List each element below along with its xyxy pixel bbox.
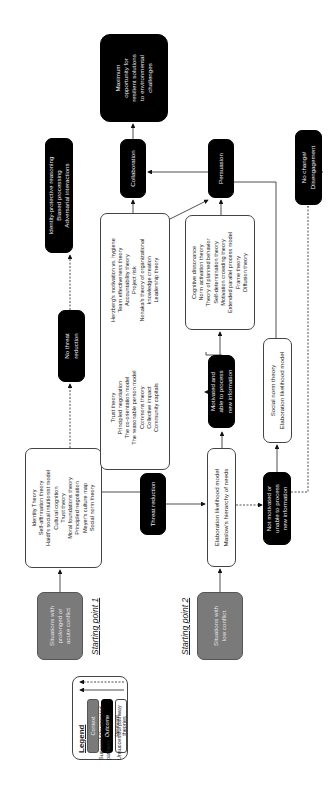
text-line: Biased processing bbox=[55, 157, 63, 235]
text-line: Threat reduction bbox=[149, 481, 157, 526]
text-line: Diffusion theory bbox=[242, 232, 249, 313]
text-line: Motivated and bbox=[209, 370, 217, 414]
text-line: Cognitive dissonance bbox=[191, 232, 198, 313]
text-line: Maximum bbox=[114, 54, 122, 101]
theories-collaboration: Trust theory Principled negotiation The … bbox=[100, 213, 170, 470]
text-line: Trust theory bbox=[60, 470, 67, 546]
text-line: Motivation crowding theory bbox=[220, 232, 227, 313]
text-line: acute conflict bbox=[64, 606, 72, 646]
text-line: Meyer's culture map bbox=[82, 470, 89, 546]
text-line: Commons theory bbox=[139, 370, 146, 444]
text-line: Haidt's social intuitionist model bbox=[45, 470, 52, 546]
legend-path-labels: Successful/suggested pathway Unsuccessfu… bbox=[98, 676, 128, 760]
text-line: Disengagement bbox=[309, 146, 317, 189]
theories-elaboration: Elaboration likelihood model Maslow's hi… bbox=[207, 448, 236, 567]
text-line: Not motivated or bbox=[265, 484, 273, 533]
text-line: Collective impact bbox=[146, 370, 153, 444]
text-line: Self-determination theory bbox=[213, 232, 220, 313]
outcome-collaboration: Collaboration bbox=[120, 139, 146, 198]
text-line: Theory of planned behavior bbox=[205, 232, 212, 313]
text-line: Self-affirmation theory bbox=[38, 470, 45, 546]
outcome-maximum-opportunity: Maximum opportunity for resilient soluti… bbox=[100, 34, 168, 122]
text-line: Norm activation theory bbox=[198, 232, 205, 313]
text-line: Social norm theory bbox=[269, 352, 277, 429]
context-low-conflict: Situations with low conflict bbox=[197, 592, 243, 660]
text-line: prolonged or bbox=[56, 606, 64, 646]
text-line: unable to process bbox=[273, 484, 281, 533]
outcome-threat-reduction: Threat reduction bbox=[140, 473, 166, 535]
text-line: challenges bbox=[146, 54, 154, 101]
outcome-motivated: Motivated and able to process new inform… bbox=[208, 355, 235, 428]
text-line: Principled negotiation bbox=[117, 370, 124, 444]
text-line: resilient solutions bbox=[130, 54, 138, 101]
text-line: The co-orientation model bbox=[124, 370, 131, 444]
text-line: knowledge creation bbox=[146, 238, 153, 322]
diagram-canvas: Legend Context Outcome Relevant theories… bbox=[0, 0, 328, 792]
text-line: Collaboration bbox=[129, 150, 137, 186]
text-line: Social norm theory bbox=[89, 470, 96, 546]
outcome-no-threat-reduction: No threat reduction bbox=[58, 310, 85, 382]
legend-unsuccessful-text: Unsuccessful pathway bbox=[116, 680, 122, 760]
starting-point-2-label: Starting point 2 bbox=[180, 598, 190, 655]
text-line: to environmental bbox=[138, 54, 146, 101]
outcome-persuasion: Persuasion bbox=[208, 139, 234, 198]
text-line: Project risk bbox=[131, 238, 138, 322]
text-line: opportunity for bbox=[122, 54, 130, 101]
text-line: No change/ bbox=[300, 146, 308, 189]
theories-social-norm: Social norm theory Elaboration likelihoo… bbox=[263, 338, 292, 443]
outcome-identity-protective: Identity-protective reasoning Biased pro… bbox=[45, 138, 73, 253]
context-prolonged-conflict: Situations with prolonged or acute confl… bbox=[37, 592, 83, 660]
text-line: Principled negotiation bbox=[74, 470, 81, 546]
text-line: Extended parallel process model bbox=[227, 232, 234, 313]
text-line: Moral foundations theory bbox=[67, 470, 74, 546]
text-line: Nonaka's theory of organizational bbox=[139, 238, 146, 322]
text-line: Elaboration likelihood model bbox=[278, 352, 286, 429]
text-line: Leadership theory bbox=[153, 238, 160, 322]
theories-identity: Identity Theory Self-affirmation theory … bbox=[25, 448, 102, 568]
text-line: Situations with bbox=[212, 606, 220, 646]
text-line: Elaboration likelihood model bbox=[213, 469, 221, 547]
text-line: Team effectiveness theory bbox=[117, 238, 124, 322]
text-line: Maslow's hierarchy of needs bbox=[222, 469, 230, 547]
text-line: Herzberg's motivation vs. hygiene bbox=[110, 238, 117, 322]
text-line: able to process bbox=[217, 370, 225, 414]
text-line: Adversarial interactions bbox=[63, 157, 71, 235]
starting-point-1-label: Starting point 1 bbox=[90, 598, 100, 655]
text-line: Cultural cognition bbox=[53, 470, 60, 546]
outcome-no-change: No change/ Disengagement bbox=[295, 130, 322, 205]
text-line: reduction bbox=[72, 333, 80, 358]
text-line: Community capitals bbox=[153, 370, 160, 444]
text-line: No threat bbox=[63, 333, 71, 358]
text-line: new information bbox=[226, 370, 234, 414]
text-line: The reasonable person model bbox=[131, 370, 138, 444]
text-line: Identity-protective reasoning bbox=[47, 157, 55, 235]
text-line: low conflict bbox=[220, 606, 228, 646]
text-line: Frame theory bbox=[235, 232, 242, 313]
text-line: Persuasion bbox=[217, 153, 225, 184]
text-line: new information bbox=[281, 484, 289, 533]
text-line: Accountability theory bbox=[124, 238, 131, 322]
outcome-not-motivated: Not motivated or unable to process new i… bbox=[263, 472, 291, 545]
text-line: Trust theory bbox=[110, 370, 117, 444]
theories-persuasion: Cognitive dissonance Norm activation the… bbox=[185, 215, 255, 330]
text-line: Situations with bbox=[48, 606, 56, 646]
legend-successful-text: Successful/suggested pathway bbox=[98, 690, 111, 760]
text-line: Identity Theory bbox=[31, 470, 38, 546]
